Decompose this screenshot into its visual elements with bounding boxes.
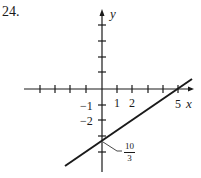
y-tick-label-neg1: −1	[80, 100, 93, 112]
x-axis-label: x	[186, 97, 192, 110]
coordinate-plot	[0, 0, 201, 178]
y-tick-label-neg2: −2	[80, 115, 93, 127]
x-tick-label-1: 1	[114, 97, 120, 109]
x-tick-label-2: 2	[129, 97, 135, 109]
intercept-numerator: 10	[125, 142, 134, 151]
intercept-denominator: 3	[127, 154, 132, 163]
y-axis-label: y	[110, 7, 116, 20]
x-tick-label-5: 5	[175, 98, 181, 110]
intercept-label: 10 3	[124, 142, 135, 163]
